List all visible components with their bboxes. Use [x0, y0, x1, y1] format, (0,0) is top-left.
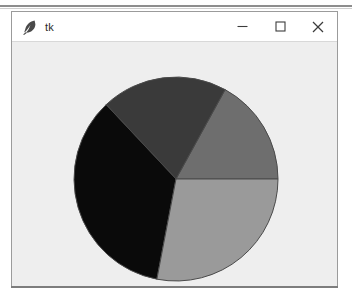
minimize-icon: [236, 20, 249, 33]
close-button[interactable]: [299, 12, 337, 41]
window-title: tk: [45, 21, 54, 33]
page-top-rule-secondary: [0, 8, 352, 9]
titlebar[interactable]: tk: [12, 12, 337, 42]
pie-chart: [12, 42, 337, 287]
maximize-icon: [274, 20, 287, 33]
close-icon: [311, 20, 325, 34]
pie-slice-group: [74, 77, 278, 281]
page-top-rule: [0, 5, 352, 7]
tk-window: tk: [11, 11, 338, 288]
matplotlib-canvas-area[interactable]: [12, 42, 337, 287]
pie-slice: [157, 179, 278, 281]
window-bottom-edge: [11, 286, 338, 288]
maximize-button[interactable]: [261, 12, 299, 41]
feather-icon: [21, 18, 39, 36]
minimize-button[interactable]: [223, 12, 261, 41]
